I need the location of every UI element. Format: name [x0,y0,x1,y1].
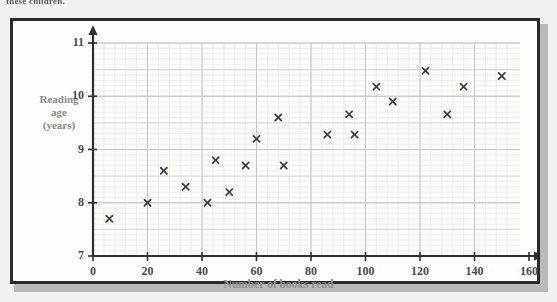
x-tick-label-40: 40 [187,264,217,279]
x-axis-title: Number of books read [0,278,557,290]
x-tick-label-160: 160 [514,264,544,279]
x-tick-label-100: 100 [351,264,381,279]
y-tick-label-9: 9 [62,142,84,157]
figure-inner-background: Reading age (years) 78910110204060801001… [13,21,537,281]
figure-frame: Reading age (years) 78910110204060801001… [10,18,540,284]
x-tick-label-20: 20 [133,264,163,279]
y-axis-title-line-3: (years) [29,119,89,132]
y-tick-label-11: 11 [62,35,84,50]
x-tick-label-0: 0 [78,264,108,279]
x-tick-label-80: 80 [296,264,326,279]
y-axis-title-line-2: age [29,106,89,119]
y-tick-label-7: 7 [62,248,84,263]
y-tick-label-8: 8 [62,195,84,210]
x-tick-label-120: 120 [405,264,435,279]
x-tick-label-60: 60 [242,264,272,279]
x-tick-label-140: 140 [460,264,490,279]
y-tick-label-10: 10 [62,88,84,103]
scatter-plot [13,21,537,281]
top-caption: these children. [6,0,65,4]
